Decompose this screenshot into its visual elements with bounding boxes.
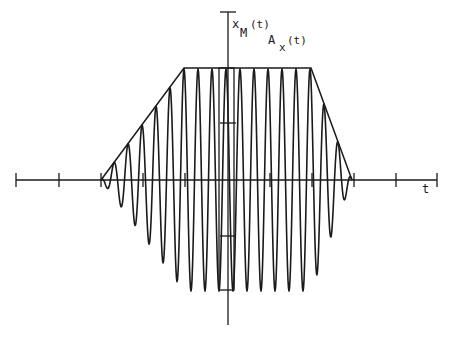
envelope-label: A x (t): [268, 33, 307, 54]
envelope-label-sub: x: [279, 41, 286, 54]
signal-label-arg: (t): [250, 18, 270, 31]
signal-label-x: x: [232, 17, 239, 31]
envelope-label-arg: (t): [287, 34, 307, 47]
axes: [16, 12, 437, 325]
time-axis-label: t: [422, 182, 429, 196]
signal-label-sub: M: [240, 26, 247, 40]
envelope-label-a: A: [268, 33, 276, 47]
modulated-signal-figure: x M (t) A x (t) t: [0, 0, 451, 339]
signal-label: x M (t): [232, 17, 270, 40]
